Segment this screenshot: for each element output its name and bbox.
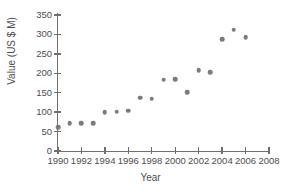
data-point xyxy=(196,68,201,73)
data-point xyxy=(161,78,166,83)
data-point xyxy=(126,108,131,113)
x-tick-label: 2008 xyxy=(258,156,279,166)
x-tick-label: 2002 xyxy=(188,156,209,166)
y-tick-label: 250 xyxy=(36,49,52,59)
x-tick-label: 1992 xyxy=(71,156,92,166)
x-tick-label: 1990 xyxy=(47,156,68,166)
data-point xyxy=(185,90,190,95)
data-point xyxy=(220,37,225,42)
y-tick-label: 350 xyxy=(36,10,52,20)
x-tick-label: 1994 xyxy=(94,156,115,166)
data-point xyxy=(114,109,119,114)
data-point xyxy=(79,121,84,126)
x-tick-label: 1996 xyxy=(118,156,139,166)
y-tick-label: 300 xyxy=(36,29,52,39)
data-point xyxy=(232,27,237,32)
y-axis-title: Value (US $ M) xyxy=(7,3,17,99)
x-tick-label: 2004 xyxy=(212,156,233,166)
y-tick-label: 200 xyxy=(36,68,52,78)
x-tick-label: 1998 xyxy=(141,156,162,166)
y-tick-label: 100 xyxy=(36,107,52,117)
x-tick-label: 2006 xyxy=(235,156,256,166)
data-point xyxy=(173,77,178,82)
scatter-chart: 050100150200250300350 199019921994199619… xyxy=(0,0,301,193)
data-point xyxy=(56,125,61,130)
y-tick-label: 50 xyxy=(41,127,52,137)
data-point xyxy=(91,121,96,126)
data-point xyxy=(149,96,154,101)
data-point xyxy=(67,121,72,126)
data-point xyxy=(243,35,248,40)
data-point xyxy=(138,95,143,100)
data-point xyxy=(208,70,213,75)
data-point xyxy=(103,110,108,115)
plot-area xyxy=(58,15,269,151)
x-tick-label: 2000 xyxy=(165,156,186,166)
y-tick-label: 150 xyxy=(36,88,52,98)
x-axis-title: Year xyxy=(0,173,301,183)
